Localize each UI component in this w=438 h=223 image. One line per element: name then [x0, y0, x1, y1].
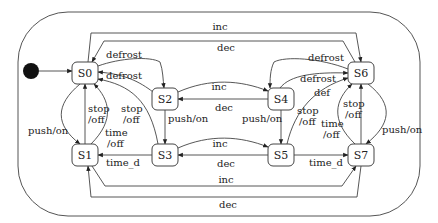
- label-s3-s5-inc: inc: [212, 138, 228, 149]
- label-s4-s5-push: push/on: [242, 113, 283, 124]
- label-s4-s6-defrost: defrost: [300, 73, 336, 84]
- state-s4: S4: [268, 88, 294, 110]
- label-bottom-inc: inc: [218, 174, 234, 185]
- state-s3-label: S3: [158, 149, 173, 162]
- label-s6-s7-push: push/on: [382, 124, 423, 135]
- label-s7-s6-time-b: /off: [323, 129, 340, 140]
- label-s0-s1-push: push/on: [28, 125, 69, 136]
- label-s1-s0-stop-b: /off: [88, 114, 105, 125]
- state-s5-label: S5: [274, 149, 289, 162]
- state-s6: S6: [348, 62, 374, 84]
- label-top-inc: inc: [212, 21, 228, 32]
- state-s0: S0: [72, 62, 98, 84]
- state-s6-label: S6: [354, 67, 369, 80]
- state-s3: S3: [152, 144, 178, 166]
- state-s1-label: S1: [78, 149, 93, 162]
- state-diagram: inc dec inc dec defrost defrost defrost …: [0, 0, 438, 223]
- state-s0-label: S0: [78, 67, 93, 80]
- state-s2-label: S2: [158, 93, 173, 106]
- edge-s6-s7-push: [366, 84, 386, 144]
- label-s2-s4-inc: inc: [211, 81, 227, 92]
- label-s5-s6-stop-b: /off: [299, 116, 316, 127]
- label-s3-s0-stop-b: /off: [123, 114, 140, 125]
- label-s5-s6-stop-a: stop: [297, 105, 319, 116]
- state-s7-label: S7: [354, 149, 369, 162]
- label-s5-s3-dec: dec: [217, 158, 235, 169]
- label-s5-s7-time-d: time_d: [309, 157, 344, 169]
- label-s1-s0-time-b: /off: [107, 138, 124, 149]
- label-s2-s3-push: push/on: [168, 113, 209, 124]
- state-s2: S2: [152, 88, 178, 110]
- state-s4-label: S4: [274, 93, 289, 106]
- state-s7: S7: [348, 144, 374, 166]
- label-s5-s6-def: def: [314, 87, 331, 98]
- label-s7-s6-stop-a: stop: [343, 98, 365, 109]
- label-s3-s1-time-d: time_d: [106, 157, 141, 169]
- label-s0-s2-defrost: defrost: [106, 49, 142, 60]
- label-s6-s4-defrost: defrost: [308, 52, 344, 63]
- label-s7-s6-stop-b: /off: [345, 109, 362, 120]
- label-bottom-dec: dec: [219, 199, 237, 210]
- state-s1: S1: [72, 144, 98, 166]
- label-s1-s0-time-a: time: [105, 127, 128, 138]
- label-s3-s0-stop-a: stop: [121, 103, 143, 114]
- label-top-dec: dec: [217, 42, 235, 53]
- label-s2-s0-defrost: defrost: [106, 70, 142, 81]
- state-s5: S5: [268, 144, 294, 166]
- label-s4-s2-dec: dec: [215, 102, 233, 113]
- label-s7-s6-time-a: time: [321, 118, 344, 129]
- initial-state-dot: [23, 63, 39, 79]
